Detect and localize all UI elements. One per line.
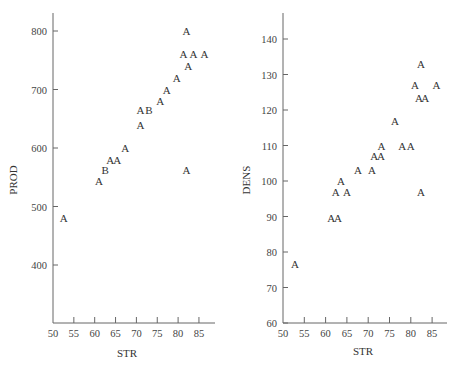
scatter-plots: 4005006007008005055606570758085STRPRODAA… xyxy=(0,0,456,369)
y-tick-label: 140 xyxy=(261,34,277,45)
data-point-marker: A xyxy=(173,72,181,84)
y-tick-label: 400 xyxy=(31,260,47,271)
data-point-marker: A xyxy=(121,142,129,154)
data-point-marker: B xyxy=(145,104,152,116)
data-point-marker: B xyxy=(101,164,108,176)
x-tick-label: 75 xyxy=(152,328,163,339)
data-point-marker: A xyxy=(432,79,440,91)
y-tick-label: 130 xyxy=(261,70,277,81)
y-tick-label: 60 xyxy=(267,318,278,329)
x-tick-label: 55 xyxy=(69,328,80,339)
y-tick-label: 80 xyxy=(267,247,278,258)
x-tick-label: 65 xyxy=(342,328,353,339)
data-point-marker: A xyxy=(354,164,362,176)
y-tick-label: 110 xyxy=(262,141,277,152)
x-axis-title: STR xyxy=(353,345,374,357)
data-point-marker: A xyxy=(411,79,419,91)
x-tick-label: 80 xyxy=(406,328,417,339)
x-tick-label: 85 xyxy=(194,328,205,339)
x-tick-label: 50 xyxy=(48,328,59,339)
x-tick-label: 85 xyxy=(427,328,438,339)
data-point-marker: A xyxy=(190,48,198,60)
y-tick-label: 600 xyxy=(31,143,47,154)
x-tick-label: 60 xyxy=(89,328,100,339)
x-tick-label: 50 xyxy=(278,328,289,339)
y-tick-label: 700 xyxy=(31,85,47,96)
data-point-marker: A xyxy=(291,258,299,270)
data-point-marker: A xyxy=(137,119,145,131)
data-point-marker: A xyxy=(95,175,103,187)
x-tick-label: 55 xyxy=(299,328,310,339)
data-point-marker: A xyxy=(113,154,121,166)
data-point-marker: A xyxy=(182,25,190,37)
x-tick-label: 70 xyxy=(131,328,142,339)
dens-vs-str-chart: 607080901001101201301405055606570758085S… xyxy=(240,13,447,357)
data-point-marker: A xyxy=(407,140,415,152)
x-tick-label: 60 xyxy=(320,328,331,339)
data-point-marker: A xyxy=(368,164,376,176)
data-point-marker: A xyxy=(421,92,429,104)
y-tick-label: 70 xyxy=(267,283,278,294)
y-tick-label: 800 xyxy=(31,26,47,37)
data-point-marker: A xyxy=(343,186,351,198)
x-tick-label: 65 xyxy=(110,328,121,339)
y-axis-title: PROD xyxy=(7,165,19,194)
data-point-marker: A xyxy=(137,104,145,116)
x-axis-title: STR xyxy=(117,347,138,359)
x-tick-label: 80 xyxy=(173,328,184,339)
y-tick-label: 500 xyxy=(31,202,47,213)
data-point-marker: A xyxy=(184,60,192,72)
y-tick-label: 120 xyxy=(261,105,277,116)
y-tick-label: 100 xyxy=(261,176,277,187)
data-point-marker: A xyxy=(334,212,342,224)
x-tick-label: 70 xyxy=(363,328,374,339)
x-tick-label: 75 xyxy=(384,328,395,339)
y-axis-title: DENS xyxy=(240,166,252,195)
data-point-marker: A xyxy=(200,48,208,60)
data-point-marker: A xyxy=(417,58,425,70)
data-point-marker: A xyxy=(377,150,385,162)
data-point-marker: A xyxy=(398,140,406,152)
data-point-marker: A xyxy=(163,84,171,96)
data-point-marker: A xyxy=(156,95,164,107)
data-point-marker: A xyxy=(60,212,68,224)
data-point-marker: A xyxy=(182,164,190,176)
prod-vs-str-chart: 4005006007008005055606570758085STRPRODAA… xyxy=(7,13,215,359)
data-point-marker: A xyxy=(332,186,340,198)
data-point-marker: A xyxy=(391,115,399,127)
data-point-marker: A xyxy=(417,186,425,198)
y-tick-label: 90 xyxy=(267,212,278,223)
data-point-marker: A xyxy=(180,48,188,60)
